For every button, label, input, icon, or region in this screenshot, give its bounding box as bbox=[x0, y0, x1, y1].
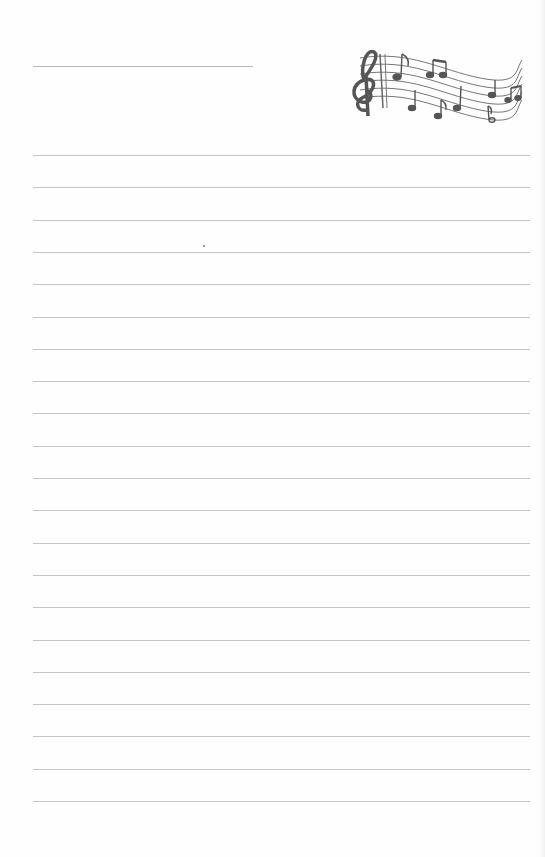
ruled-line bbox=[33, 607, 530, 608]
ruled-line bbox=[33, 478, 530, 479]
ruled-line bbox=[33, 446, 530, 447]
page-edge-shadow bbox=[539, 0, 545, 857]
treble-clef-icon bbox=[354, 51, 376, 116]
ruled-line bbox=[33, 349, 530, 350]
ruled-line bbox=[33, 155, 530, 156]
ruled-line bbox=[33, 510, 530, 511]
ruled-line bbox=[33, 543, 530, 544]
ruled-line bbox=[33, 640, 530, 641]
ruled-line bbox=[33, 252, 530, 253]
ruled-line bbox=[33, 704, 530, 705]
notepaper-page bbox=[0, 0, 545, 857]
ruled-line bbox=[33, 575, 530, 576]
music-staff-icon bbox=[340, 40, 525, 135]
ruled-line bbox=[33, 736, 530, 737]
ruled-line bbox=[33, 413, 530, 414]
ruled-line bbox=[33, 317, 530, 318]
ruled-line bbox=[33, 801, 530, 802]
ink-speck bbox=[203, 245, 205, 247]
ruled-line bbox=[33, 769, 530, 770]
title-line bbox=[33, 66, 253, 67]
ruled-line bbox=[33, 672, 530, 673]
ruled-line bbox=[33, 284, 530, 285]
ruled-line bbox=[33, 220, 530, 221]
ruled-line bbox=[33, 381, 530, 382]
ruled-line bbox=[33, 187, 530, 188]
